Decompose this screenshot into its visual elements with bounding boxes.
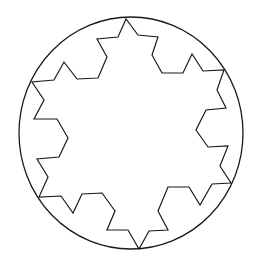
circumscribed-circle — [19, 17, 243, 249]
koch-snowflake-outline — [32, 19, 231, 249]
koch-snowflake-diagram — [0, 0, 260, 265]
figure-canvas — [0, 0, 260, 265]
